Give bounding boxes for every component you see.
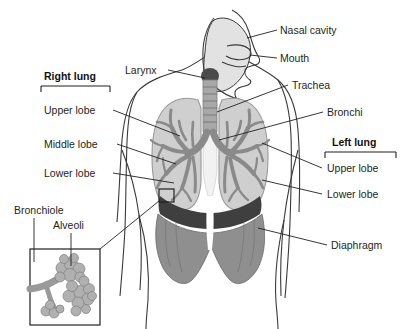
- right-lung-bracket: [41, 86, 110, 92]
- label-left-upper-lobe: Upper lobe: [327, 162, 379, 174]
- label-bronchi: Bronchi: [327, 106, 363, 118]
- alveoli-inset: [30, 249, 100, 325]
- label-right-upper-lobe: Upper lobe: [44, 104, 96, 116]
- label-left-lower-lobe: Lower lobe: [327, 188, 379, 200]
- label-diaphragm: Diaphragm: [331, 239, 383, 251]
- heading-right-lung: Right lung: [44, 70, 96, 82]
- left-lung-bracket: [325, 152, 396, 158]
- heading-left-lung: Left lung: [332, 136, 376, 148]
- label-bronchiole: Bronchiole: [14, 204, 64, 216]
- diaphragm: [156, 196, 265, 284]
- label-right-lower-lobe: Lower lobe: [44, 167, 96, 179]
- respiratory-system-diagram: Nasal cavity Mouth Trachea Bronchi Laryn…: [0, 0, 415, 329]
- label-mouth: Mouth: [280, 52, 309, 64]
- label-larynx: Larynx: [125, 64, 157, 76]
- label-nasal-cavity: Nasal cavity: [280, 24, 337, 36]
- label-right-middle-lobe: Middle lobe: [44, 138, 98, 150]
- label-trachea: Trachea: [292, 79, 330, 91]
- label-alveoli: Alveoli: [53, 219, 84, 231]
